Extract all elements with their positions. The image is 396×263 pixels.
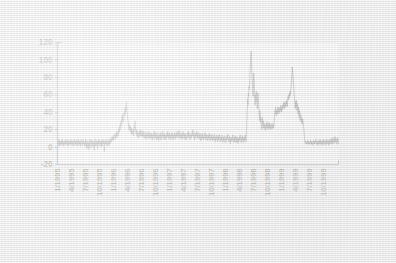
x-tick-label-14: 7/1998 — [249, 169, 258, 192]
y-tick-label-2: 20 — [43, 125, 53, 134]
x-tick-label-7: 10/1996 — [151, 169, 160, 196]
y-axis-tick-labels: -20020406080100120 — [39, 38, 53, 169]
y-tick-label-4: 60 — [43, 90, 53, 99]
y-tick-label-1: 0 — [48, 143, 53, 152]
x-tick-label-12: 1/1998 — [221, 169, 230, 192]
time-series-chart: -20020406080100120 1/19954/19957/199510/… — [0, 0, 396, 263]
x-tick-label-10: 7/1997 — [193, 169, 202, 192]
x-tick-label-1: 4/1995 — [67, 168, 76, 192]
x-tick-label-2: 7/1995 — [81, 168, 90, 192]
x-tick-label-16: 1/1999 — [277, 169, 286, 192]
x-tick-label-0: 1/1995 — [53, 168, 62, 192]
y-tick-label-6: 100 — [39, 56, 53, 65]
x-tick-label-3: 10/1995 — [95, 168, 104, 196]
x-tick-label-15: 10/1998 — [263, 169, 272, 196]
x-tick-label-8: 1/1997 — [165, 169, 174, 192]
y-tick-label-7: 120 — [39, 38, 53, 47]
x-tick-label-4: 1/1996 — [109, 169, 118, 192]
x-tick-label-11: 10/1997 — [207, 169, 216, 196]
x-tick-label-5: 4/1996 — [123, 169, 132, 192]
x-tick-label-13: 4/1998 — [235, 169, 244, 192]
x-tick-label-19: 10/1999 — [319, 169, 328, 196]
x-tick-label-18: 7/1999 — [305, 169, 314, 192]
x-axis-tick-labels: 1/19954/19957/199510/19951/19964/19967/1… — [53, 168, 329, 196]
y-tick-label-0: -20 — [41, 160, 53, 169]
x-tick-label-6: 7/1996 — [137, 169, 146, 192]
y-tick-label-3: 40 — [43, 108, 53, 117]
x-tick-label-17: 4/1999 — [291, 169, 300, 192]
figure-container: -20020406080100120 1/19954/19957/199510/… — [0, 0, 396, 263]
x-tick-label-9: 4/1997 — [179, 169, 188, 192]
y-tick-label-5: 80 — [43, 73, 53, 82]
